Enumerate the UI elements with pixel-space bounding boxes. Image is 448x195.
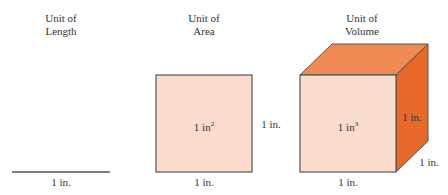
area-center-label: 1 in2	[164, 118, 244, 134]
volume-bottom-label: 1 in.	[308, 176, 388, 189]
area-side-label: 1 in.	[256, 118, 286, 131]
volume-side-label: 1 in.	[398, 111, 426, 124]
volume-title: Unit ofVolume	[322, 12, 402, 38]
area-title: Unit ofArea	[164, 12, 244, 38]
volume-depth-label: 1 in.	[414, 156, 444, 169]
volume-center-label: 1 in3	[308, 118, 388, 134]
length-title: Unit ofLength	[21, 12, 101, 38]
length-bottom-label: 1 in.	[21, 176, 101, 189]
area-bottom-label: 1 in.	[164, 176, 244, 189]
